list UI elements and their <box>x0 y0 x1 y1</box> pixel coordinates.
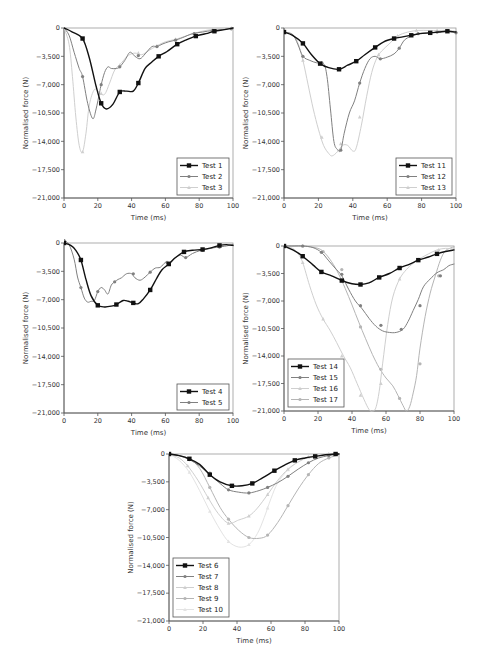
marker-triangle-icon <box>301 261 305 264</box>
marker-circle-icon <box>340 273 343 276</box>
y-axis-label: Normalised force (N) <box>22 292 30 365</box>
legend-label: Test 13 <box>420 184 446 192</box>
marker-circle-icon <box>379 57 382 60</box>
legend: Test 11Test 12Test 13 <box>396 158 452 195</box>
x-tick-label: 20 <box>94 202 102 210</box>
legend: Test 14Test 15Test 16Test 17 <box>288 359 344 407</box>
series-line <box>169 454 339 524</box>
y-tick-label: −7,000 <box>36 296 60 304</box>
marker-square-icon <box>428 31 432 35</box>
y-tick-label: 0 <box>56 239 60 247</box>
marker-square-icon <box>293 458 297 462</box>
marker-square-icon <box>79 258 83 262</box>
y-tick-label: −14,000 <box>252 352 280 360</box>
marker-circle-icon <box>149 271 152 274</box>
y-tick-label: −3,500 <box>256 53 280 61</box>
marker-square-icon <box>183 563 187 567</box>
marker-circle-icon <box>307 473 310 476</box>
y-tick-label: −14,000 <box>137 562 165 570</box>
marker-circle-icon <box>100 83 103 86</box>
marker-square-icon <box>392 36 396 40</box>
marker-circle-icon <box>183 575 186 578</box>
marker-triangle-icon <box>301 58 305 61</box>
marker-square-icon <box>208 472 212 476</box>
marker-square-icon <box>217 243 221 247</box>
marker-circle-icon <box>247 491 250 494</box>
legend-label: Test 17 <box>312 396 338 404</box>
series-line <box>64 28 233 153</box>
x-tick-label: 60 <box>383 202 391 210</box>
x-tick-label: 40 <box>127 202 135 210</box>
y-tick-label: −7,000 <box>256 297 280 305</box>
x-tick-label: 20 <box>199 625 207 633</box>
marker-circle-icon <box>113 280 116 283</box>
y-tick-label: −21,000 <box>32 409 60 417</box>
x-tick-label: 0 <box>62 202 66 210</box>
legend-label: Test 1 <box>201 162 222 170</box>
marker-square-icon <box>194 34 198 38</box>
series-line <box>284 246 454 285</box>
marker-square-icon <box>156 54 160 58</box>
marker-circle-icon <box>359 325 362 328</box>
x-tick-label: 0 <box>282 202 286 210</box>
y-tick-label: −17,500 <box>252 166 280 174</box>
x-tick-label: 100 <box>227 202 239 210</box>
marker-triangle-icon <box>358 115 362 118</box>
x-tick-label: 80 <box>416 415 424 423</box>
marker-circle-icon <box>418 362 421 365</box>
marker-square-icon <box>182 250 186 254</box>
series-line <box>169 454 339 493</box>
chart-panel-2: 0−3,500−7,000−10,500−14,000−17,500−21,00… <box>242 24 462 222</box>
x-tick-label: 0 <box>167 625 171 633</box>
legend-label: Test 12 <box>420 173 446 181</box>
x-tick-label: 100 <box>448 415 460 423</box>
series-test-10 <box>167 452 339 547</box>
marker-circle-icon <box>398 397 401 400</box>
series-test-11 <box>282 29 456 71</box>
marker-square-icon <box>313 454 317 458</box>
marker-circle-icon <box>286 504 289 507</box>
marker-square-icon <box>114 302 118 306</box>
marker-circle-icon <box>174 39 177 42</box>
series-line <box>64 28 233 109</box>
series-test-3 <box>64 26 233 153</box>
marker-square-icon <box>298 364 302 368</box>
marker-square-icon <box>200 247 204 251</box>
marker-square-icon <box>435 252 439 256</box>
marker-triangle-icon <box>379 382 383 385</box>
x-axis-label: Time (ms) <box>130 214 167 222</box>
marker-circle-icon <box>266 486 269 489</box>
legend-label: Test 14 <box>312 363 338 371</box>
legend-label: Test 4 <box>201 388 223 396</box>
x-tick-label: 0 <box>62 417 66 425</box>
marker-circle-icon <box>307 461 310 464</box>
marker-circle-icon <box>227 488 230 491</box>
legend-label: Test 8 <box>197 584 218 592</box>
legend-label: Test 2 <box>201 173 222 181</box>
x-tick-label: 60 <box>161 202 169 210</box>
marker-square-icon <box>175 42 179 46</box>
x-tick-label: 80 <box>195 417 203 425</box>
legend: Test 6Test 7Test 8Test 9Test 10 <box>173 558 229 617</box>
marker-square-icon <box>333 452 337 456</box>
y-tick-label: −14,000 <box>32 138 60 146</box>
x-tick-label: 60 <box>161 417 169 425</box>
x-axis-label: Time (ms) <box>130 429 167 437</box>
marker-square-icon <box>187 389 191 393</box>
x-tick-label: 40 <box>349 202 357 210</box>
marker-circle-icon <box>227 518 230 521</box>
marker-square-icon <box>319 270 323 274</box>
y-tick-label: −10,500 <box>252 109 280 117</box>
marker-square-icon <box>340 278 344 282</box>
x-tick-label: 100 <box>450 202 462 210</box>
x-tick-label: 100 <box>333 625 345 633</box>
marker-circle-icon <box>79 286 82 289</box>
y-tick-label: −21,000 <box>32 194 60 202</box>
marker-square-icon <box>230 484 234 488</box>
chart-panel-3: 0−3,500−7,000−10,500−14,000−17,500−21,00… <box>22 239 239 437</box>
marker-circle-icon <box>96 290 99 293</box>
legend: Test 1Test 2Test 3 <box>177 158 229 195</box>
y-tick-label: −17,500 <box>137 589 165 597</box>
x-axis-label: Time (ms) <box>351 214 388 222</box>
x-tick-label: 40 <box>348 415 356 423</box>
